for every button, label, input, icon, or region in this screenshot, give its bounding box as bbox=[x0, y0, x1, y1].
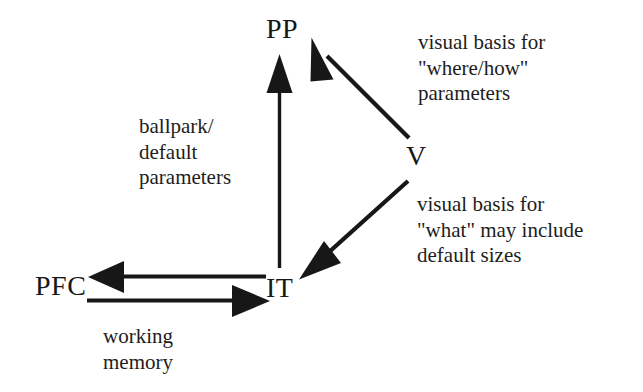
edge-v-to-pp-shaft bbox=[327, 56, 409, 138]
node-label-it[interactable]: IT bbox=[266, 274, 293, 302]
diagram-canvas: PP V IT PFC ballpark/ default parameters… bbox=[0, 0, 643, 392]
node-label-pfc[interactable]: PFC bbox=[35, 272, 86, 300]
edge-caption-working-memory: working memory bbox=[103, 324, 173, 375]
edge-pfc-to-it bbox=[87, 285, 270, 317]
edge-v-to-it bbox=[299, 181, 408, 280]
edge-v-to-pp bbox=[311, 38, 410, 139]
node-label-pp[interactable]: PP bbox=[266, 15, 298, 43]
edge-it-to-pp-arrowhead bbox=[267, 54, 293, 93]
edge-it-to-pp bbox=[267, 54, 293, 268]
edge-v-to-it-shaft bbox=[318, 181, 408, 262]
edge-caption-where-how: visual basis for "where/how" parameters bbox=[418, 30, 545, 107]
edge-pfc-to-it-arrowhead bbox=[232, 285, 270, 317]
edge-caption-what-default-sizes: visual basis for "what" may include defa… bbox=[417, 192, 583, 269]
edge-caption-ballpark-parameters: ballpark/ default parameters bbox=[139, 114, 231, 191]
edge-it-to-pfc-arrowhead bbox=[88, 261, 124, 293]
node-label-v[interactable]: V bbox=[406, 142, 427, 170]
